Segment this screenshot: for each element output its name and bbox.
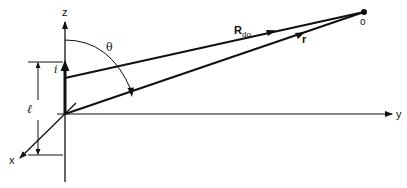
vector-diagram: z i ℓ x y Rdo r θ o <box>0 0 407 188</box>
length-dimension <box>28 62 63 155</box>
current-label: i <box>54 63 58 76</box>
angle-theta-label: θ <box>106 41 113 54</box>
vector-R-label: Rdo <box>234 24 251 39</box>
y-axis-label: y <box>396 108 402 120</box>
vector-r-label: r <box>302 33 307 45</box>
vector-r <box>65 12 364 114</box>
observation-point-label: o <box>360 16 366 27</box>
length-label: ℓ <box>27 102 32 116</box>
angle-theta-arc <box>65 40 134 97</box>
vector-R-main: R <box>234 24 242 36</box>
observation-point <box>361 9 367 15</box>
vector-R-subscript: do <box>242 30 251 39</box>
current-element <box>61 60 70 114</box>
x-axis-label: x <box>9 154 15 166</box>
z-axis-label: z <box>62 6 68 18</box>
